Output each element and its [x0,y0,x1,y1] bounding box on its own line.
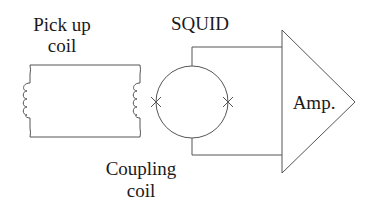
pickup-left-wire-bottom [30,118,31,137]
pickup-coil [23,65,140,137]
coupling-coil-label-line2: coil [127,180,156,201]
squid-loop-icon [156,66,228,138]
coupling-right-wire-bottom [140,118,141,137]
coupling-coil-label-line1: Coupling [106,158,177,179]
squid-bottom-output-wire [192,138,282,155]
coupling-right-wire-top [140,65,141,83]
squid-ring [151,66,233,138]
pickup-coil-label-line2: coil [48,35,77,56]
pickup-coil-icon [23,83,30,118]
diagram-svg: Pick up coil SQUID Coupling coil Amp. [0,0,381,204]
pickup-left-wire-top [30,65,31,83]
coupling-coil-icon [133,83,140,118]
coupling-coil [133,83,140,118]
squid-label: SQUID [171,13,229,34]
amplifier-label: Amp. [293,92,336,113]
pickup-coil-label-line1: Pick up [33,14,91,35]
squid-diagram: Pick up coil SQUID Coupling coil Amp. [0,0,381,204]
squid-top-output-wire [192,47,282,66]
